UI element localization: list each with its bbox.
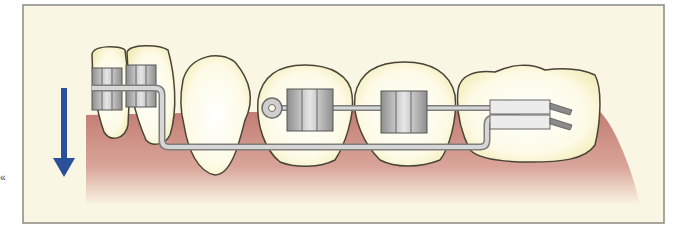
bracket-premolar-2 bbox=[381, 91, 427, 133]
figure bbox=[0, 0, 684, 234]
bracket-premolar-1 bbox=[287, 89, 333, 131]
margin-mark: « bbox=[0, 172, 6, 183]
